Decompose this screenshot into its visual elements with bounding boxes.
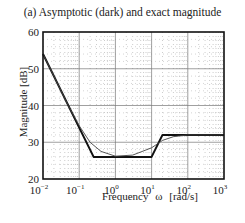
magnitude-plot: 203040506010−210−1100101102103	[0, 0, 245, 223]
y-tick-label: 60	[28, 26, 40, 38]
x-tick-label: 10−2	[30, 183, 49, 196]
x-tick-label: 103	[213, 183, 228, 196]
x-tick-label: 102	[177, 183, 192, 196]
x-tick-label: 100	[104, 183, 119, 196]
x-tick-label: 10−1	[66, 183, 85, 196]
y-tick-label: 30	[28, 136, 40, 148]
y-tick-label: 50	[28, 63, 40, 75]
y-tick-label: 40	[28, 100, 40, 112]
x-tick-label: 101	[140, 183, 155, 196]
series-exact-line	[43, 54, 224, 156]
